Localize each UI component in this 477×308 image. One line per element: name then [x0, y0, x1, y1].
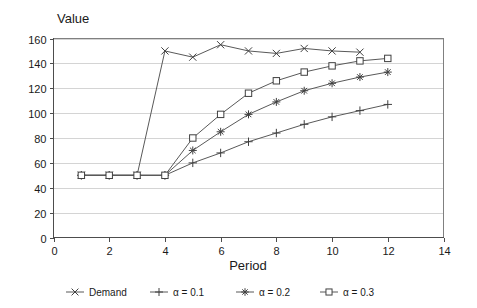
- x-tick-label: 4: [162, 245, 168, 257]
- y-tick-label: 120: [28, 83, 46, 95]
- x-tick-label: 0: [51, 245, 57, 257]
- x-axis-title: Period: [229, 258, 267, 273]
- asterisk-icon: [300, 87, 308, 95]
- legend-label: α = 0.3: [343, 287, 375, 298]
- x-tick-label: 14: [438, 245, 450, 257]
- square-icon: [357, 58, 363, 64]
- square-icon: [329, 63, 335, 69]
- y-tick-label: 160: [28, 34, 46, 46]
- x-tick-label: 12: [382, 245, 394, 257]
- square-icon: [385, 55, 391, 61]
- square-icon: [217, 111, 223, 117]
- square-icon: [78, 172, 84, 178]
- x-tick-label: 2: [106, 245, 112, 257]
- y-axis-title: Value: [57, 11, 89, 26]
- asterisk-icon: [356, 73, 364, 81]
- square-icon: [134, 172, 140, 178]
- asterisk-icon: [328, 79, 336, 87]
- line-chart-figure: 020406080100120140160 02468101214 Value …: [0, 0, 477, 308]
- y-tick-label: 80: [34, 133, 46, 145]
- x-tick-label: 10: [326, 245, 338, 257]
- y-tick-label: 100: [28, 108, 46, 120]
- asterisk-icon: [241, 288, 249, 296]
- square-icon: [326, 289, 332, 295]
- square-icon: [162, 172, 168, 178]
- asterisk-icon: [245, 110, 253, 118]
- square-icon: [190, 135, 196, 141]
- y-tick-label: 0: [40, 233, 46, 245]
- x-tick-label: 8: [273, 245, 279, 257]
- y-tick-label: 140: [28, 58, 46, 70]
- square-icon: [245, 90, 251, 96]
- legend-label: α = 0.1: [173, 287, 205, 298]
- square-icon: [273, 78, 279, 84]
- chart-canvas: 020406080100120140160 02468101214 Value …: [0, 0, 477, 308]
- y-tick-label: 40: [34, 183, 46, 195]
- legend-label: α = 0.2: [259, 287, 291, 298]
- y-tick-label: 20: [34, 208, 46, 220]
- asterisk-icon: [272, 98, 280, 106]
- legend-label: Demand: [89, 287, 127, 298]
- square-icon: [301, 69, 307, 75]
- y-tick-label: 60: [34, 158, 46, 170]
- square-icon: [106, 172, 112, 178]
- asterisk-icon: [217, 128, 225, 136]
- asterisk-icon: [189, 146, 197, 154]
- x-tick-label: 6: [218, 245, 224, 257]
- asterisk-icon: [384, 68, 392, 76]
